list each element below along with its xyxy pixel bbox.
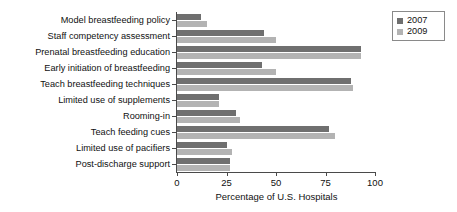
bar-2009 [177, 85, 353, 91]
legend-label-2009: 2009 [407, 26, 427, 37]
bar-group [177, 140, 375, 156]
bar-group [177, 76, 375, 92]
category-label: Limited use of supplements [0, 95, 170, 105]
y-axis-tick [172, 52, 177, 53]
category-label: Teach feeding cues [0, 127, 170, 137]
category-label: Staff competency assessment [0, 31, 170, 41]
y-axis-tick [172, 36, 177, 37]
bar-2009 [177, 21, 207, 27]
bar-2009 [177, 37, 276, 43]
x-axis-tick [375, 172, 376, 176]
y-axis-tick [172, 84, 177, 85]
bar-group [177, 124, 375, 140]
bar-group [177, 44, 375, 60]
bar-2007 [177, 126, 329, 132]
y-axis-tick [172, 148, 177, 149]
x-axis-tick [326, 172, 327, 176]
category-label: Teach breastfeeding techniques [0, 79, 170, 89]
bar-group [177, 92, 375, 108]
bar-2009 [177, 101, 219, 107]
bar-group [177, 108, 375, 124]
bar-2007 [177, 14, 201, 20]
bar-2007 [177, 94, 219, 100]
bar-2009 [177, 133, 335, 139]
y-axis-tick [172, 116, 177, 117]
chart-legend: 2007 2009 [392, 11, 445, 41]
x-axis-tick-label: 0 [160, 177, 194, 188]
y-axis-tick [172, 100, 177, 101]
x-axis-tick-label: 25 [210, 177, 244, 188]
category-label: Post-discharge support [0, 159, 170, 169]
y-axis-tick [172, 164, 177, 165]
bar-2007 [177, 110, 236, 116]
legend-swatch-icon-2007 [397, 18, 403, 24]
bar-2007 [177, 46, 361, 52]
plot-area [177, 12, 375, 172]
bar-group [177, 28, 375, 44]
bar-2007 [177, 78, 351, 84]
bar-2009 [177, 149, 232, 155]
legend-label-2007: 2007 [407, 15, 427, 26]
category-label: Prenatal breastfeeding education [0, 47, 170, 57]
legend-swatch-icon-2009 [397, 29, 403, 35]
bar-2009 [177, 165, 230, 171]
category-label: Model breastfeeding policy [0, 15, 170, 25]
bar-group [177, 156, 375, 172]
bar-2007 [177, 62, 262, 68]
x-axis-tick [227, 172, 228, 176]
legend-item-2007: 2007 [397, 15, 440, 26]
x-axis-title: Percentage of U.S. Hospitals [177, 191, 376, 202]
x-axis-tick [177, 172, 178, 176]
category-label: Early initiation of breastfeeding [0, 63, 170, 73]
bar-2007 [177, 158, 230, 164]
category-axis-labels: Model breastfeeding policyStaff competen… [0, 12, 174, 172]
legend-item-2009: 2009 [397, 26, 440, 37]
bar-2007 [177, 30, 264, 36]
category-label: Limited use of pacifiers [0, 143, 170, 153]
x-axis-tick [276, 172, 277, 176]
y-axis-tick [172, 132, 177, 133]
category-label: Rooming-in [0, 111, 170, 121]
bar-2007 [177, 142, 227, 148]
bar-2009 [177, 69, 276, 75]
bar-group [177, 12, 375, 28]
bar-group [177, 60, 375, 76]
bar-2009 [177, 53, 361, 59]
bar-2009 [177, 117, 240, 123]
y-axis-tick [172, 20, 177, 21]
x-axis-tick-label: 100 [358, 177, 392, 188]
x-axis-tick-label: 50 [259, 177, 293, 188]
bar-chart-figure: Model breastfeeding policyStaff competen… [0, 0, 457, 212]
y-axis-tick [172, 68, 177, 69]
x-axis-tick-label: 75 [309, 177, 343, 188]
